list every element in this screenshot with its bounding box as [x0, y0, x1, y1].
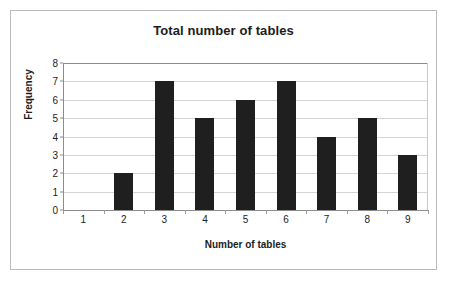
y-tick-label: 5 — [52, 113, 58, 124]
chart-title: Total number of tables — [11, 23, 436, 38]
y-tick-label: 0 — [52, 205, 58, 216]
x-tick-label: 8 — [364, 214, 370, 225]
bar — [358, 118, 377, 210]
plot-right-edge — [427, 63, 428, 210]
bar — [317, 137, 336, 211]
y-tick-label: 1 — [52, 186, 58, 197]
x-tick-label: 6 — [283, 214, 289, 225]
x-tick-label: 7 — [324, 214, 330, 225]
y-axis-title: Frequency — [23, 50, 34, 140]
y-tick-label: 2 — [52, 168, 58, 179]
x-tick-label: 1 — [80, 214, 86, 225]
bar — [398, 155, 417, 210]
x-tick-label: 5 — [243, 214, 249, 225]
y-tick-label: 6 — [52, 94, 58, 105]
bar — [155, 81, 174, 210]
plot-area: 012345678 — [63, 63, 428, 210]
x-tick-mark — [428, 210, 429, 214]
x-tick-label: 3 — [162, 214, 168, 225]
x-tick-label: 9 — [405, 214, 411, 225]
gridline — [63, 210, 428, 211]
y-tick-label: 8 — [52, 58, 58, 69]
y-tick-label: 7 — [52, 76, 58, 87]
bar-series — [63, 63, 428, 210]
y-tick-label: 4 — [52, 131, 58, 142]
y-axis-line — [63, 63, 64, 210]
bar — [114, 173, 133, 210]
bar — [236, 100, 255, 210]
bar — [277, 81, 296, 210]
x-axis-tick-labels: 123456789 — [63, 214, 428, 232]
x-tick-label: 4 — [202, 214, 208, 225]
x-tick-label: 2 — [121, 214, 127, 225]
y-tick-label: 3 — [52, 149, 58, 160]
bar — [195, 118, 214, 210]
chart-figure: Total number of tables Frequency 0123456… — [10, 10, 437, 270]
x-axis-title: Number of tables — [63, 239, 428, 250]
